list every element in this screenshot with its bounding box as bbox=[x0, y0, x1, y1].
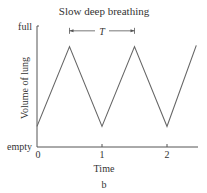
period-arrowhead-left bbox=[70, 29, 74, 32]
chart: Slow deep breathingfullempty012TimeVolum… bbox=[0, 0, 207, 193]
x-tick-label: 2 bbox=[165, 149, 170, 160]
y-axis-label: Volume of lung bbox=[19, 57, 30, 119]
y-tick-label-empty: empty bbox=[7, 141, 32, 152]
x-tick-label: 0 bbox=[36, 149, 41, 160]
period-arrowhead-right bbox=[131, 29, 135, 32]
x-axis-label: Time bbox=[94, 163, 115, 174]
y-tick-label-full: full bbox=[18, 21, 32, 32]
x-tick-label: 1 bbox=[100, 149, 105, 160]
series-line bbox=[37, 45, 196, 126]
chart-title: Slow deep breathing bbox=[59, 5, 150, 17]
caption: b bbox=[102, 179, 107, 190]
period-label: T bbox=[99, 26, 106, 37]
